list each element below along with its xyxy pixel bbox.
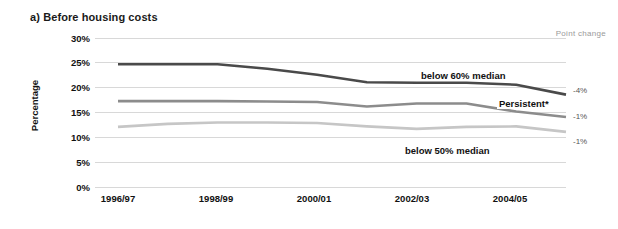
x-tick-2000-01: 2000/01 <box>297 193 331 204</box>
point-change-below50: -1% <box>573 137 587 146</box>
series-label-persistent: Persistent* <box>497 98 551 109</box>
gridlines <box>95 38 566 187</box>
point-change-persistent: -1% <box>573 112 587 121</box>
series-label-below60: below 60% median <box>419 70 507 81</box>
x-tick-2002-03: 2002/03 <box>395 193 429 204</box>
series-label-below50: below 50% median <box>403 145 491 156</box>
x-tick-1998-99: 1998/99 <box>199 193 233 204</box>
x-tick-1996-97: 1996/97 <box>101 193 135 204</box>
x-tick-2004-05: 2004/05 <box>493 193 527 204</box>
series-line <box>118 122 566 131</box>
chart-panel: a) Before housing costs Point change Per… <box>0 0 618 229</box>
point-change-below60: -4% <box>573 86 587 95</box>
